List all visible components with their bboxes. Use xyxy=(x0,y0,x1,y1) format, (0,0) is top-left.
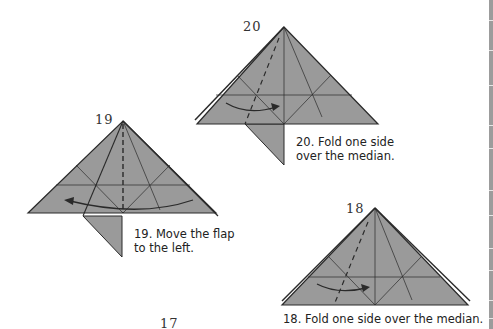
origami-instruction-page: 20 19 18 17 20. Fold one side over the m… xyxy=(0,0,493,329)
caption-step-20-line2: over the median. xyxy=(296,149,395,163)
caption-step-20: 20. Fold one side over the median. xyxy=(296,135,395,163)
caption-step-19: 19. Move the flap to the left. xyxy=(134,227,235,255)
caption-step-19-line2: to the left. xyxy=(134,241,235,255)
step-number-20: 20 xyxy=(243,19,262,34)
caption-step-18: 18. Fold one side over the median. xyxy=(283,312,483,326)
step-number-19: 19 xyxy=(95,112,114,127)
caption-step-18-line1: 18. Fold one side over the median. xyxy=(283,312,483,326)
caption-step-20-line1: 20. Fold one side xyxy=(296,135,395,149)
diagram-step-18 xyxy=(282,208,470,305)
page-edge-strip xyxy=(489,0,493,329)
step-number-18: 18 xyxy=(346,201,365,216)
caption-step-19-line1: 19. Move the flap xyxy=(134,227,235,241)
step-number-17: 17 xyxy=(160,316,179,329)
origami-diagrams xyxy=(0,0,493,329)
